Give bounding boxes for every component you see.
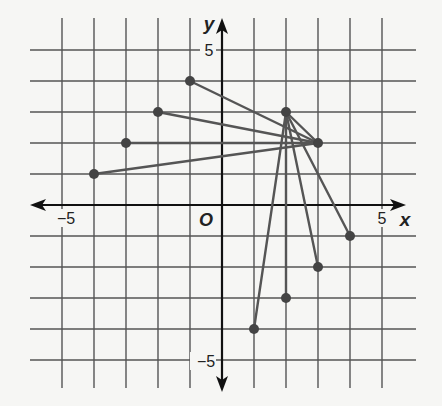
y-axis-label: y bbox=[203, 13, 216, 34]
plotted-point bbox=[89, 169, 99, 179]
x-axis-label: x bbox=[399, 209, 412, 230]
plotted-point bbox=[281, 107, 291, 117]
plotted-point bbox=[313, 138, 323, 148]
origin-label: O bbox=[199, 210, 213, 230]
plotted-point bbox=[121, 138, 131, 148]
plotted-point bbox=[185, 76, 195, 86]
y-tick-label-5: 5 bbox=[205, 42, 214, 59]
x-tick-label-neg5: −5 bbox=[57, 210, 75, 227]
axis-labels: −5 5 x 5 −5 y O bbox=[54, 13, 412, 370]
plotted-point bbox=[345, 231, 355, 241]
plotted-point bbox=[313, 262, 323, 272]
x-tick-label-5: 5 bbox=[378, 210, 387, 227]
y-tick-label-neg5: −5 bbox=[197, 353, 215, 370]
line-segment bbox=[254, 112, 286, 329]
plotted-point bbox=[249, 324, 259, 334]
plotted-point bbox=[153, 107, 163, 117]
coordinate-plane: −5 5 x 5 −5 y O bbox=[0, 0, 442, 406]
plotted-point bbox=[281, 293, 291, 303]
